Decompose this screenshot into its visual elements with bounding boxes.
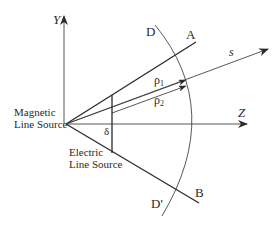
electric-source-label-1: Electric <box>69 146 103 158</box>
s-label: s <box>229 45 234 59</box>
rho1-label: ρ1 <box>154 73 164 88</box>
rho2-label: ρ2 <box>154 93 164 108</box>
line-b-label: B <box>195 185 204 200</box>
geometry-diagram: Y Z A B s D D' ρ1 ρ2 δ Magnetic Line Sou… <box>0 0 279 226</box>
line-a-label: A <box>186 27 196 42</box>
electric-source-label-2: Line Source <box>69 158 123 170</box>
arc-bottom-label: D' <box>151 196 163 211</box>
rho2-arrow <box>112 86 186 113</box>
magnetic-source-label-1: Magnetic <box>14 106 56 118</box>
y-axis-label: Y <box>53 12 62 27</box>
z-axis-label: Z <box>238 105 246 120</box>
delta-label: δ <box>104 125 109 137</box>
magnetic-source-label-2: Line Source <box>14 118 68 130</box>
arc-top-label: D <box>146 24 155 39</box>
